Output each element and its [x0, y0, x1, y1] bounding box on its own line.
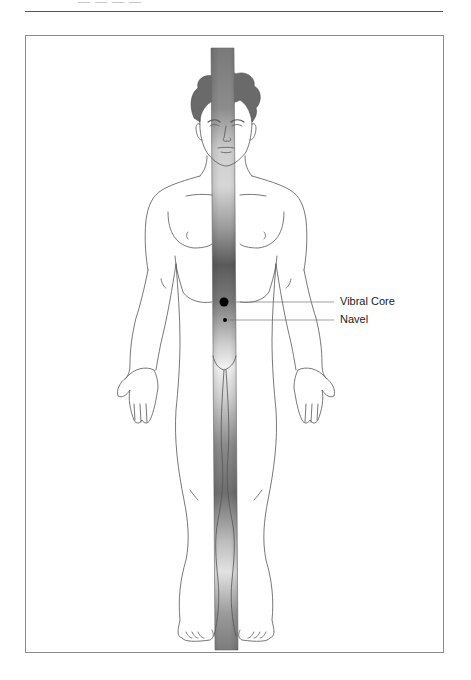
vibral-core-label: Vibral Core: [340, 295, 395, 307]
navel-marker: [223, 318, 334, 322]
navel-label: Navel: [340, 313, 368, 325]
vibral-core-marker: [220, 298, 335, 307]
body-figure: [0, 0, 471, 680]
